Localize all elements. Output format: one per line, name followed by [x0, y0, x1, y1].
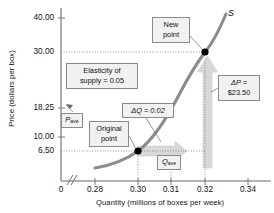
original-point-line-2: point [93, 134, 125, 144]
y-tick-label-6-50: 6.50 [20, 146, 54, 155]
p-ave-subscript: ave [70, 118, 78, 124]
delta-p-annotation: ΔP = $23.50 [218, 75, 260, 101]
delta-p-line-1: ΔP = [222, 78, 256, 88]
q-ave-annotation: Qave [157, 155, 181, 170]
y-axis-title: Price (dollars per box) [7, 34, 16, 144]
delta-p-arrow [198, 56, 218, 168]
x-tick-label-0-34: 0.34 [233, 185, 263, 194]
x-axis-break-icon [67, 175, 77, 185]
new-point-line-2: point [156, 30, 186, 40]
y-tick-label-40: 40.00 [20, 13, 54, 22]
elasticity-line-2: supply = 0.05 [70, 76, 134, 86]
y-tick-label-30: 30.00 [20, 47, 54, 56]
p-ave-annotation: Pave [61, 113, 83, 128]
original-point-marker [134, 147, 141, 154]
original-point-line-1: Original [93, 124, 125, 134]
x-tick-label-0: 0 [46, 185, 76, 194]
supply-curve-label: S [228, 8, 234, 18]
x-axis-title: Quantity (millions of boxes per week) [96, 198, 224, 207]
q-ave-subscript: ave [168, 160, 176, 166]
new-point-annotation: New point [152, 17, 190, 43]
delta-q-annotation: ΔQ = 0.02 [122, 103, 174, 118]
new-point-line-1: New [156, 20, 186, 30]
delta-p-line-2: $23.50 [222, 88, 256, 98]
original-point-annotation: Original point [89, 121, 129, 147]
new-point-marker [201, 48, 208, 55]
elasticity-annotation: Elasticity of supply = 0.05 [66, 63, 138, 89]
supply-elasticity-chart: Price (dollars per box) Quantity (millio… [0, 0, 274, 213]
x-tick-label-0-32: 0.32 [190, 185, 220, 194]
x-tick-label-0-30: 0.30 [123, 185, 153, 194]
y-tick-label-18-25: 18.25 [20, 103, 54, 112]
x-tick-label-0-31: 0.31 [156, 185, 186, 194]
y-tick-label-10: 10.00 [20, 132, 54, 141]
elasticity-line-1: Elasticity of [70, 66, 134, 76]
x-tick-label-0-28: 0.28 [80, 185, 110, 194]
